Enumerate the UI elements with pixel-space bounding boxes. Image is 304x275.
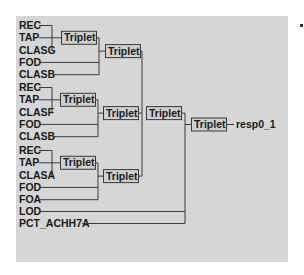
input-label-rec: REC [19, 19, 42, 31]
triplet-node-label: Triplet [149, 107, 181, 119]
triplet-node-label: Triplet [106, 170, 138, 182]
input-label-rec: REC [19, 81, 42, 93]
input-label-foa: FOA [19, 193, 42, 205]
input-label-tap: TAP [19, 31, 39, 43]
input-label-clasa: CLASA [19, 169, 56, 181]
input-label-pct-achh7a: PCT_ACHH7A [19, 217, 90, 229]
input-label-rec: REC [19, 144, 42, 156]
input-label-clasb: CLASB [19, 68, 56, 80]
input-label-fod: FOD [19, 118, 42, 130]
triplet-node-label: Triplet [64, 31, 96, 43]
input-label-fod: FOD [19, 56, 42, 68]
input-label-fod: FOD [19, 181, 42, 193]
triplet-node-label: Triplet [108, 45, 140, 57]
input-label-clasf: CLASF [19, 106, 55, 118]
input-label-lod: LOD [19, 205, 42, 217]
input-label-tap: TAP [19, 156, 39, 168]
triplet-node-label: Triplet [106, 107, 138, 119]
triplet-node-label: Triplet [63, 156, 95, 168]
final-triplet-node-label: Triplet [194, 118, 226, 130]
output-label: resp0_1 [236, 118, 276, 130]
triplet-node-label: Triplet [63, 93, 95, 105]
input-label-clasg: CLASG [19, 44, 56, 56]
network-diagram: RECTAPCLASGFODCLASBTripletTripletRECTAPC… [0, 0, 304, 275]
input-label-clasb: CLASB [19, 130, 56, 142]
input-label-tap: TAP [19, 93, 39, 105]
